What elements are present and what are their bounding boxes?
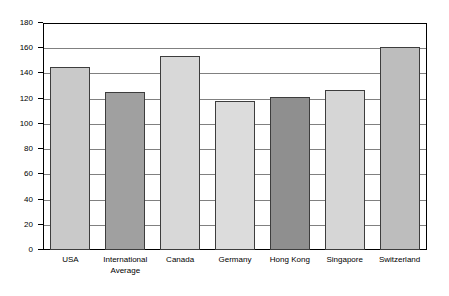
y-tick-label-120: 120 [20, 95, 33, 103]
y-tick-label-0: 0 [29, 246, 33, 254]
x-tick-label-hong-kong: Hong Kong [262, 254, 317, 265]
bar-international-average [105, 92, 145, 250]
y-tick-label-40: 40 [24, 196, 33, 204]
bar-singapore [325, 90, 365, 250]
x-tick-label-switzerland: Switzerland [372, 254, 427, 265]
x-tick-label-germany: Germany [208, 254, 263, 265]
y-tick-label-140: 140 [20, 69, 33, 77]
bar-hong-kong [270, 97, 310, 250]
y-tick-label-80: 80 [24, 145, 33, 153]
x-tick-label-singapore: Singapore [317, 254, 372, 265]
x-tick-label-international-average: International Average [98, 254, 153, 276]
y-axis: 020406080100120140160180 [0, 0, 43, 296]
bar-canada [160, 56, 200, 250]
bar-switzerland [380, 47, 420, 250]
y-tick-label-180: 180 [20, 19, 33, 27]
y-tick-label-160: 160 [20, 44, 33, 52]
x-tick-label-canada: Canada [153, 254, 208, 265]
y-tick-label-60: 60 [24, 170, 33, 178]
bar-usa [50, 67, 90, 250]
x-axis: USAInternational AverageCanadaGermanyHon… [43, 254, 427, 296]
x-tick-label-usa: USA [43, 254, 98, 265]
bar-germany [215, 101, 255, 250]
y-tick-label-20: 20 [24, 221, 33, 229]
y-tick-label-100: 100 [20, 120, 33, 128]
bar-chart: 020406080100120140160180 USAInternationa… [0, 0, 449, 296]
bar-series [43, 23, 427, 250]
